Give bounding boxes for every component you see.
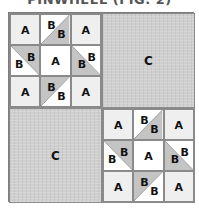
half-square-triangle: B B [103,140,133,171]
patch-label: B [140,177,148,188]
patch-label: A [82,86,91,97]
patch-a: A [10,14,40,45]
patch-a: A [164,171,194,202]
patch-label: A [82,24,91,35]
patch-label: B [88,52,96,63]
patch-label: B [15,59,23,70]
patch-label: A [21,86,30,97]
patch-label: B [108,154,116,165]
patch-a-center: A [40,45,70,76]
patch-a: A [10,76,40,107]
patch-label: B [57,91,65,102]
patch-label: B [27,52,35,63]
patch-label: A [175,119,184,130]
patch-label: B [171,154,179,165]
quilt-layout: A B B A B B A [8,12,194,202]
patch-label: B [57,29,65,40]
half-square-triangle: B B [133,109,163,140]
half-square-triangle: B B [71,45,101,76]
diagram-title: PINWHEEL (FIG. 2) [0,0,199,7]
patch-label: B [181,147,189,158]
half-square-triangle: B B [10,45,40,76]
patch-a: A [71,14,101,45]
half-square-triangle: B B [133,171,163,202]
patch-label: C [144,54,153,68]
patch-a: A [103,171,133,202]
patch-label: A [114,119,123,130]
patch-label: B [150,124,158,135]
patch-label: B [47,20,55,31]
patch-label: B [78,59,86,70]
pinwheel-block-bottom-right: A B B A B B A [102,108,195,203]
patch-label: A [175,181,184,192]
patch-label: A [144,150,153,161]
patch-a: A [103,109,133,140]
patch-label: B [47,82,55,93]
half-square-triangle: B B [40,76,70,107]
patch-label: B [150,186,158,197]
patch-label: B [120,147,128,158]
solid-block-top-right: C [102,13,195,108]
patch-label: C [51,149,60,163]
solid-block-bottom-left: C [9,108,102,203]
patch-a: A [71,76,101,107]
half-square-triangle: B B [40,14,70,45]
patch-label: A [51,55,60,66]
patch-label: A [114,181,123,192]
half-square-triangle: B B [164,140,194,171]
pinwheel-block-top-left: A B B A B B A [9,13,102,108]
patch-label: A [21,24,30,35]
patch-a: A [164,109,194,140]
patch-a-center: A [133,140,163,171]
patch-label: B [140,115,148,126]
